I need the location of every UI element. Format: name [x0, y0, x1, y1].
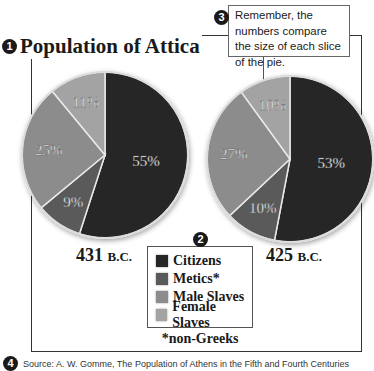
footnote: *non-Greeks — [150, 331, 250, 347]
legend: Citizens Metics* Male Slaves Female Slav… — [147, 246, 253, 328]
swatch-male-slaves — [156, 291, 168, 303]
source-text: Source: A. W. Gomme, The Population of A… — [23, 359, 349, 369]
slice-percent-label: 27% — [220, 146, 248, 162]
year-era: B.C. — [108, 249, 133, 264]
slice-percent-label: 9% — [63, 194, 83, 210]
slice-percent-label: 55% — [132, 153, 160, 169]
legend-item-citizens: Citizens — [156, 252, 252, 270]
step-badge-4: 4 — [3, 356, 18, 371]
year-era: B.C. — [298, 249, 323, 264]
swatch-metics — [156, 273, 168, 285]
legend-item-metics: Metics* — [156, 270, 252, 288]
legend-label: Female Slaves — [172, 299, 252, 331]
year-number: 431 — [76, 245, 103, 265]
slice-percent-label: 11% — [72, 94, 99, 110]
slice-percent-label: 10% — [249, 200, 277, 216]
slice-percent-label: 25% — [35, 142, 63, 158]
year-number: 425 — [266, 245, 293, 265]
slice-percent-label: 10% — [259, 97, 287, 113]
legend-item-female-slaves: Female Slaves — [156, 306, 252, 324]
swatch-female-slaves — [156, 309, 167, 321]
pie-label-431: 431 B.C. — [76, 245, 132, 266]
source-line: 4 Source: A. W. Gomme, The Population of… — [3, 356, 349, 371]
swatch-citizens — [156, 255, 168, 267]
legend-label: Metics* — [173, 271, 220, 287]
pie-label-425: 425 B.C. — [266, 245, 322, 266]
slice-percent-label: 53% — [318, 155, 346, 171]
step-badge-2: 2 — [193, 232, 208, 247]
legend-label: Citizens — [173, 253, 221, 269]
